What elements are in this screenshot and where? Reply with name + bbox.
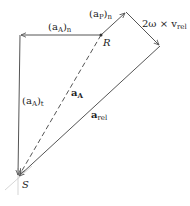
label-aP-n: (aP)n xyxy=(89,8,113,21)
vector-aA-t xyxy=(18,35,20,175)
label-aA-n: (aA)n xyxy=(48,21,72,34)
label-point-R: R xyxy=(102,37,111,48)
vector-a-rel xyxy=(19,46,160,176)
label-a-A: aA xyxy=(71,87,83,100)
label-coriolis: 2ω × vrel xyxy=(142,18,187,31)
label-point-S: S xyxy=(22,179,29,190)
label-aA-t: (aA)t xyxy=(22,95,44,108)
vector-diagram: (aA)n (aP)n 2ω × vrel R (aA)t aA arel S xyxy=(0,0,190,206)
label-a-rel: arel xyxy=(91,109,108,122)
